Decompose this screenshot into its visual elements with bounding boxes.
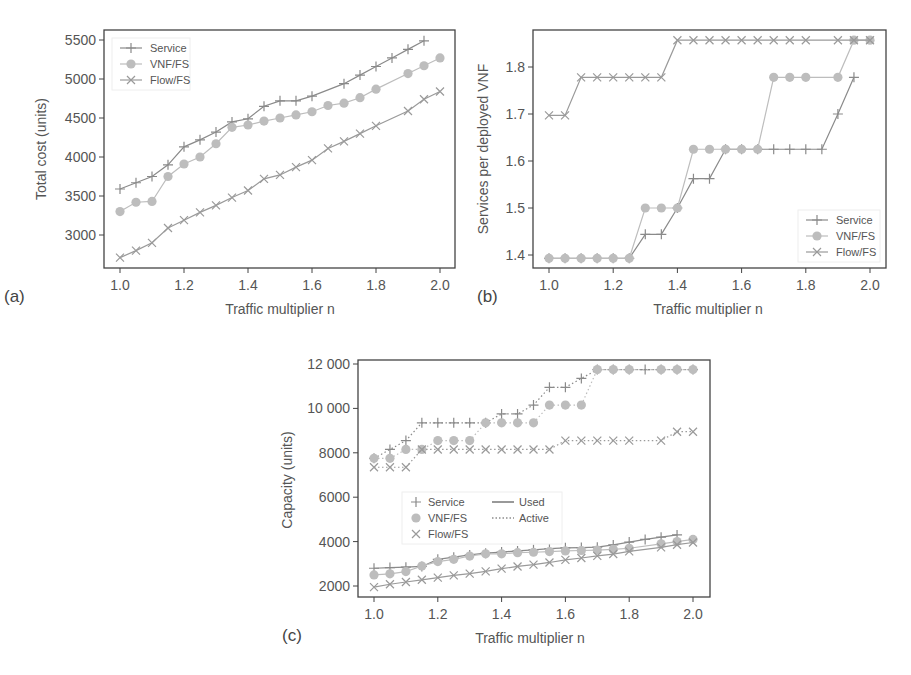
circle-marker	[769, 73, 778, 82]
panel-label: (b)	[477, 287, 498, 306]
x-tick-label: 2.0	[860, 277, 880, 293]
circle-marker	[163, 172, 172, 181]
circle-marker	[497, 418, 506, 427]
legend-label: VNF/FS	[150, 58, 189, 70]
legend-label: VNF/FS	[836, 230, 875, 242]
circle-marker	[657, 203, 666, 212]
circle-marker	[753, 145, 762, 154]
chart-panel-b: 1.01.21.41.61.82.01.41.51.61.71.8Traffic…	[475, 30, 886, 317]
circle-marker	[323, 101, 332, 110]
legend-label: Flow/FS	[836, 246, 876, 258]
y-tick-label: 1.5	[506, 200, 526, 216]
y-tick-label: 3500	[65, 188, 96, 204]
circle-marker	[307, 107, 316, 116]
y-axis-title: Capacity (units)	[279, 431, 295, 528]
circle-marker	[609, 254, 618, 263]
x-tick-label: 1.0	[539, 277, 559, 293]
circle-marker	[673, 203, 682, 212]
x-axis-title: Traffic multiplier n	[225, 301, 335, 317]
circle-marker	[689, 145, 698, 154]
y-tick-label: 5500	[65, 32, 96, 48]
y-tick-label: 4500	[65, 110, 96, 126]
circle-marker	[513, 548, 522, 557]
x-tick-label: 2.0	[430, 277, 450, 293]
y-tick-label: 6000	[319, 489, 350, 505]
y-tick-label: 1.7	[506, 106, 526, 122]
circle-marker	[561, 400, 570, 409]
circle-marker	[529, 418, 538, 427]
y-tick-label: 2000	[319, 578, 350, 594]
circle-marker	[339, 99, 348, 108]
circle-marker	[577, 254, 586, 263]
circle-marker	[147, 197, 156, 206]
x-tick-label: 1.0	[364, 606, 384, 622]
x-tick-label: 1.6	[302, 277, 322, 293]
legend: ServiceVNF/FSFlow/FS	[798, 210, 880, 262]
circle-marker	[417, 561, 426, 570]
circle-marker	[577, 400, 586, 409]
circle-marker	[737, 145, 746, 154]
x-tick-label: 1.4	[238, 277, 258, 293]
circle-marker	[275, 113, 284, 122]
legend-label: VNF/FS	[428, 512, 467, 524]
circle-marker	[403, 69, 412, 78]
circle-marker	[545, 547, 554, 556]
legend: ServiceVNF/FSFlow/FSUsedActive	[402, 492, 562, 544]
x-tick-label: 1.8	[366, 277, 386, 293]
x-tick-label: 2.0	[683, 606, 703, 622]
circle-marker	[513, 418, 522, 427]
circle-marker	[497, 549, 506, 558]
circle-marker	[433, 557, 442, 566]
x-tick-label: 1.8	[796, 277, 816, 293]
x-tick-label: 1.6	[556, 606, 576, 622]
circle-marker	[179, 159, 188, 168]
circle-marker	[433, 436, 442, 445]
circle-marker	[577, 546, 586, 555]
x-tick-label: 1.6	[732, 277, 752, 293]
circle-marker	[419, 61, 428, 70]
circle-marker	[211, 139, 220, 148]
legend-label: Service	[428, 496, 465, 508]
circle-marker	[243, 120, 252, 129]
legend-label: Flow/FS	[150, 74, 190, 86]
circle-marker	[833, 73, 842, 82]
legend-label: Flow/FS	[428, 528, 468, 540]
chart-panel-c: 1.01.21.41.61.82.0200040006000800010 000…	[279, 356, 710, 646]
circle-marker	[369, 454, 378, 463]
circle-marker	[625, 365, 634, 374]
x-tick-label: 1.0	[110, 277, 130, 293]
circle-marker	[672, 365, 681, 374]
circle-marker	[609, 545, 618, 554]
plot-frame	[358, 360, 710, 597]
circle-marker	[227, 123, 236, 132]
y-tick-label: 8000	[319, 445, 350, 461]
x-axis-title: Traffic multiplier n	[475, 630, 585, 646]
circle-marker	[195, 152, 204, 161]
circle-marker	[657, 365, 666, 374]
circle-marker	[625, 254, 634, 263]
circle-marker	[411, 513, 420, 522]
circle-marker	[609, 365, 618, 374]
circle-marker	[561, 546, 570, 555]
y-tick-label: 1.6	[506, 153, 526, 169]
circle-marker	[481, 549, 490, 558]
y-tick-label: 4000	[319, 534, 350, 550]
figure-canvas: 1.01.21.41.61.82.03000350040004500500055…	[0, 0, 911, 675]
y-tick-label: 5000	[65, 71, 96, 87]
circle-marker	[115, 207, 124, 216]
circle-marker	[481, 418, 490, 427]
legend-label: Service	[836, 214, 873, 226]
panel-label: (a)	[4, 287, 25, 306]
circle-marker	[369, 570, 378, 579]
panel-label: (c)	[282, 626, 302, 645]
circle-marker	[449, 436, 458, 445]
y-axis-title: Total cost (units)	[33, 98, 49, 200]
circle-marker	[801, 73, 810, 82]
circle-marker	[812, 231, 821, 240]
x-tick-label: 1.4	[492, 606, 512, 622]
circle-marker	[705, 145, 714, 154]
circle-marker	[401, 445, 410, 454]
legend-style-label: Active	[519, 512, 549, 524]
y-tick-label: 3000	[65, 227, 96, 243]
circle-marker	[721, 145, 730, 154]
